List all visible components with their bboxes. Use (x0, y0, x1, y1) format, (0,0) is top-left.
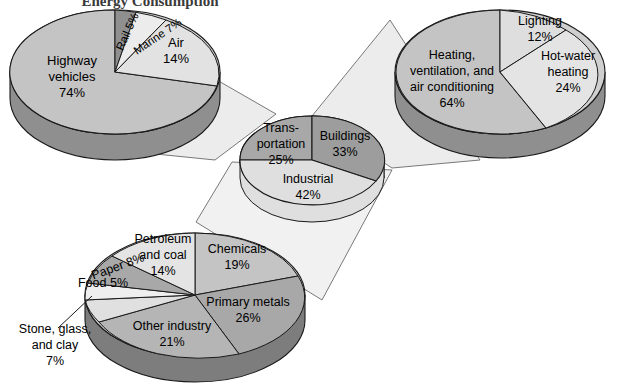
pie-buildings: Heating, ventilation, and air conditioni… (395, 10, 605, 158)
label-stone-glass-clay: Stone, glass, and clay 7% (19, 322, 91, 368)
petroleum-line2: and coal (139, 248, 186, 262)
hotwater-line1: Hot-water (541, 49, 595, 63)
air-pct: 14% (163, 51, 189, 66)
lighting-line1: Lighting (518, 14, 562, 28)
petroleum-pct: 14% (150, 264, 175, 278)
hvac-line2: ventilation, and (410, 64, 494, 78)
hotwater-pct: 24% (555, 81, 580, 95)
pie-transportation: Highway vehicles 74% Rail 5% Marine 7% A… (10, 10, 220, 160)
primary-metals-line1: Primary metals (206, 295, 289, 309)
highway-line1: Highway (47, 53, 97, 68)
hvac-line1: Heating, (429, 48, 476, 62)
chemicals-pct: 19% (224, 258, 249, 272)
chart-canvas: Energy Consumption Highway vehicles 74% … (0, 0, 620, 386)
pie-industrial: Chemicals 19% Primary metals 26% Other i… (19, 232, 305, 382)
main-buildings-line1: Buildings (320, 129, 371, 143)
label-food: Food 5% (78, 276, 128, 290)
main-buildings-pct: 33% (332, 145, 357, 159)
stone-pct: 7% (46, 354, 64, 368)
main-transportation-pct: 25% (268, 153, 293, 167)
petroleum-line1: Petroleum (135, 232, 192, 246)
chart-title-clipped: Energy Consumption (81, 0, 219, 9)
primary-metals-pct: 26% (235, 311, 260, 325)
hvac-pct: 64% (439, 96, 464, 110)
stone-line2: and clay (32, 338, 79, 352)
pie-of-pie-chart: Energy Consumption Highway vehicles 74% … (0, 0, 620, 386)
other-industry-line1: Other industry (133, 319, 212, 333)
main-industrial-line1: Industrial (283, 172, 334, 186)
pie-main: Trans- portation 25% Buildings 33% Indus… (240, 116, 385, 222)
main-transportation-line1: Trans- (263, 121, 299, 135)
other-industry-pct: 21% (159, 335, 184, 349)
hotwater-line2: heating (547, 65, 588, 79)
hvac-line3: air conditioning (410, 80, 494, 94)
highway-line2: vehicles (49, 69, 96, 84)
main-industrial-pct: 42% (295, 188, 320, 202)
chemicals-line1: Chemicals (208, 242, 266, 256)
main-transportation-line2: portation (257, 137, 306, 151)
lighting-pct: 12% (527, 30, 552, 44)
stone-line1: Stone, glass, (19, 322, 91, 336)
air-line1: Air (168, 35, 185, 50)
highway-pct: 74% (59, 85, 85, 100)
